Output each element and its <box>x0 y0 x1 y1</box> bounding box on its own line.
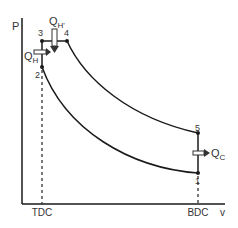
x-axis-label: v <box>220 207 225 218</box>
point-1 <box>196 171 200 175</box>
qc-label: QC <box>211 147 226 162</box>
point-2-label: 2 <box>35 70 40 80</box>
bdc-label: BDC <box>187 207 208 218</box>
process-4-5 <box>67 41 198 133</box>
point-3-label: 3 <box>38 28 43 38</box>
qh-prime-label: QH' <box>49 15 65 30</box>
tdc-label: TDC <box>32 207 53 218</box>
qc-arrow-icon <box>193 149 210 157</box>
process-1-2 <box>42 67 198 173</box>
point-5-label: 5 <box>195 123 200 133</box>
pv-diagram: P v TDC BDC 1 2 3 4 5 QH' QH QC <box>0 0 238 228</box>
y-axis-label: P <box>12 20 19 32</box>
point-2 <box>40 65 44 69</box>
point-4 <box>65 39 69 43</box>
point-3 <box>40 39 44 43</box>
point-1-label: 1 <box>195 176 200 186</box>
